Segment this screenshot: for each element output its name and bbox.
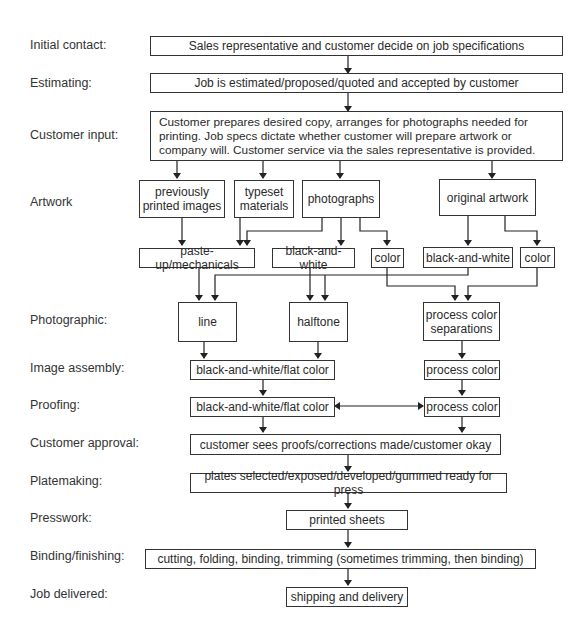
node-customer-input: Customer prepares desired copy, arranges… <box>150 111 563 161</box>
node-previously-printed-images: previously printed images <box>139 180 225 218</box>
node-job-delivered: shipping and delivery <box>286 587 408 607</box>
node-art-color: color <box>520 247 555 268</box>
stage-label-artwork: Artwork <box>30 195 72 209</box>
stage-label-proofing: Proofing: <box>30 398 80 412</box>
node-photo-black-and-white: black-and-white <box>272 248 355 268</box>
stage-label-platemaking: Platemaking: <box>30 474 102 488</box>
stage-label-initial-contact: Initial contact: <box>30 38 106 52</box>
node-process-color-separations: process color separations <box>423 302 500 341</box>
stage-label-job-delivered: Job delivered: <box>30 587 108 601</box>
node-original-artwork: original artwork <box>439 179 536 216</box>
stage-label-photographic: Photographic: <box>30 313 107 327</box>
node-halftone: halftone <box>289 302 348 342</box>
node-binding-finishing: cutting, folding, binding, trimming (som… <box>145 549 536 569</box>
stage-label-customer-approval: Customer approval: <box>30 436 139 450</box>
node-assembly-process-color: process color <box>424 360 500 380</box>
node-platemaking: plates selected/exposed/developed/gummed… <box>190 473 507 493</box>
stage-label-image-assembly: Image assembly: <box>30 361 124 375</box>
stage-label-binding-finishing: Binding/finishing: <box>30 549 125 563</box>
stage-label-customer-input: Customer input: <box>30 128 118 142</box>
node-paste-up-mechanicals: paste-up/mechanicals <box>139 248 255 268</box>
node-proof-black-and-white: black-and-white/flat color <box>190 397 335 417</box>
node-initial-contact: Sales representative and customer decide… <box>150 36 563 56</box>
node-assembly-black-and-white: black-and-white/flat color <box>190 360 335 380</box>
node-art-black-and-white: black-and-white <box>423 247 513 268</box>
stage-label-presswork: Presswork: <box>30 511 92 525</box>
node-line: line <box>178 302 237 342</box>
node-proof-process-color: process color <box>424 397 500 417</box>
node-typeset-materials: typeset materials <box>234 180 294 218</box>
node-photo-color: color <box>371 248 404 268</box>
node-presswork: printed sheets <box>286 510 408 530</box>
stage-label-estimating: Estimating: <box>30 76 92 90</box>
node-photographs: photographs <box>302 180 380 218</box>
node-estimating: Job is estimated/proposed/quoted and acc… <box>150 73 563 93</box>
node-customer-approval: customer sees proofs/corrections made/cu… <box>190 434 501 455</box>
